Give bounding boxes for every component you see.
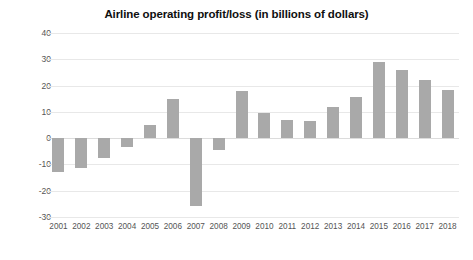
bar-slot xyxy=(161,33,184,217)
chart-container: Airline operating profit/loss (in billio… xyxy=(0,0,473,260)
bar-slot xyxy=(345,33,368,217)
x-axis-tick-label: 2013 xyxy=(324,223,342,231)
bar-2003[interactable] xyxy=(98,138,110,158)
bar-2014[interactable] xyxy=(350,97,362,138)
bar-2009[interactable] xyxy=(236,91,248,138)
bar-slot xyxy=(139,33,162,217)
bar-2016[interactable] xyxy=(396,70,408,138)
x-axis-tick-label: 2009 xyxy=(232,223,250,231)
x-axis-line xyxy=(47,217,459,218)
x-axis-tick-label: 2008 xyxy=(210,223,228,231)
bar-2011[interactable] xyxy=(281,120,293,138)
bar-slot xyxy=(276,33,299,217)
plot-area: 2001200220032004200520062007200820092010… xyxy=(47,33,459,217)
bar-slot xyxy=(367,33,390,217)
x-axis-tick-label: 2011 xyxy=(279,223,297,231)
x-axis-tick-label: 2018 xyxy=(438,223,456,231)
bar-slot xyxy=(93,33,116,217)
bar-2006[interactable] xyxy=(167,99,179,138)
x-axis-tick-label: 2015 xyxy=(370,223,388,231)
bar-2010[interactable] xyxy=(258,113,270,138)
x-axis-tick-label: 2010 xyxy=(255,223,273,231)
bar-2017[interactable] xyxy=(419,80,431,138)
bar-slot xyxy=(322,33,345,217)
bar-2018[interactable] xyxy=(442,90,454,139)
x-axis-tick-label: 2017 xyxy=(416,223,434,231)
bar-slot xyxy=(299,33,322,217)
bar-2002[interactable] xyxy=(75,138,87,168)
bar-slot xyxy=(253,33,276,217)
x-axis-tick-label: 2003 xyxy=(95,223,113,231)
bar-slot xyxy=(207,33,230,217)
bar-slot xyxy=(413,33,436,217)
bar-slot xyxy=(47,33,70,217)
bar-2015[interactable] xyxy=(373,62,385,138)
x-axis-tick-label: 2012 xyxy=(301,223,319,231)
bar-slot xyxy=(230,33,253,217)
x-axis-tick-label: 2002 xyxy=(72,223,90,231)
x-axis-tick-label: 2001 xyxy=(49,223,67,231)
bar-2012[interactable] xyxy=(304,121,316,138)
chart-title: Airline operating profit/loss (in billio… xyxy=(0,8,473,20)
x-axis-tick-label: 2004 xyxy=(118,223,136,231)
bar-2007[interactable] xyxy=(190,138,202,206)
x-axis-tick-label: 2014 xyxy=(347,223,365,231)
bar-slot xyxy=(436,33,459,217)
bar-slot xyxy=(70,33,93,217)
x-axis-tick-label: 2007 xyxy=(187,223,205,231)
x-axis-tick-label: 2016 xyxy=(393,223,411,231)
x-axis-tick-label: 2005 xyxy=(141,223,159,231)
bar-2013[interactable] xyxy=(327,107,339,139)
bar-2001[interactable] xyxy=(52,138,64,172)
bar-slot xyxy=(116,33,139,217)
bar-2004[interactable] xyxy=(121,138,133,147)
bar-slot xyxy=(390,33,413,217)
x-axis-tick-label: 2006 xyxy=(164,223,182,231)
bar-2008[interactable] xyxy=(213,138,225,150)
bar-2005[interactable] xyxy=(144,125,156,138)
bar-slot xyxy=(184,33,207,217)
